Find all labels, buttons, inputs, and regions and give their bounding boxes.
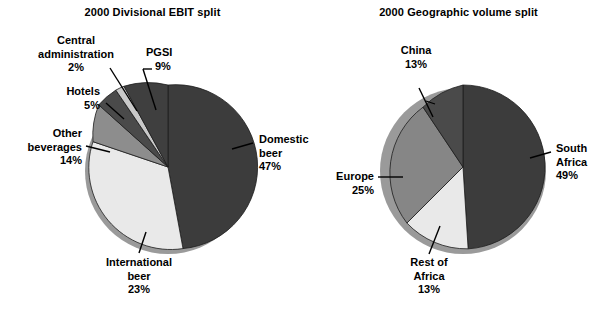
label-international-beer-line1: International bbox=[86, 256, 192, 270]
pie-slice-south-africa[interactable] bbox=[463, 85, 545, 249]
label-europe: Europe 25% bbox=[298, 170, 374, 197]
label-hotels-line1: Hotels bbox=[10, 85, 100, 99]
label-central-administration-line1: Central bbox=[26, 34, 126, 48]
label-china: China 13% bbox=[374, 44, 458, 71]
label-domestic-beer: Domestic beer 47% bbox=[259, 133, 309, 174]
label-other-beverages-line1: Other bbox=[0, 127, 82, 141]
label-pgsi-pct: 9% bbox=[155, 60, 172, 74]
label-rest-of-africa-line1: Rest of bbox=[386, 256, 472, 270]
label-other-beverages-line2: beverages bbox=[0, 141, 82, 155]
label-south-africa: South Africa 49% bbox=[556, 142, 587, 183]
label-domestic-beer-line1: Domestic bbox=[259, 133, 309, 147]
label-hotels-pct: 5% bbox=[10, 99, 100, 113]
label-international-beer: International beer 23% bbox=[86, 256, 192, 297]
label-central-administration-pct: 2% bbox=[26, 61, 126, 75]
pie-panel-geographic-volume: 2000 Geographic volume split South Afric… bbox=[306, 0, 611, 327]
label-south-africa-line2: Africa bbox=[556, 156, 587, 170]
label-rest-of-africa: Rest of Africa 13% bbox=[386, 256, 472, 297]
label-china-pct: 13% bbox=[374, 58, 458, 72]
label-pgsi: PGSI 9% bbox=[146, 46, 172, 73]
label-other-beverages: Other beverages 14% bbox=[0, 127, 82, 168]
pie-slice-domestic-beer[interactable] bbox=[168, 85, 258, 249]
label-international-beer-pct: 23% bbox=[86, 283, 192, 297]
label-europe-line1: Europe bbox=[298, 170, 374, 184]
label-south-africa-pct: 49% bbox=[556, 169, 587, 183]
label-other-beverages-pct: 14% bbox=[0, 154, 82, 168]
label-rest-of-africa-line2: Africa bbox=[386, 270, 472, 284]
label-international-beer-line2: beer bbox=[86, 270, 192, 284]
label-central-administration-line2: administration bbox=[26, 48, 126, 62]
label-europe-pct: 25% bbox=[298, 184, 374, 198]
two-pie-chart-figure: 2000 Divisional EBIT split bbox=[0, 0, 611, 327]
label-china-line1: China bbox=[374, 44, 458, 58]
label-hotels: Hotels 5% bbox=[10, 85, 100, 112]
label-domestic-beer-line2: beer bbox=[259, 147, 309, 161]
label-rest-of-africa-pct: 13% bbox=[386, 283, 472, 297]
label-south-africa-line1: South bbox=[556, 142, 587, 156]
label-pgsi-line1: PGSI bbox=[146, 46, 172, 60]
pie-panel-divisional-ebit: 2000 Divisional EBIT split bbox=[0, 0, 305, 327]
label-central-administration: Central administration 2% bbox=[26, 34, 126, 75]
